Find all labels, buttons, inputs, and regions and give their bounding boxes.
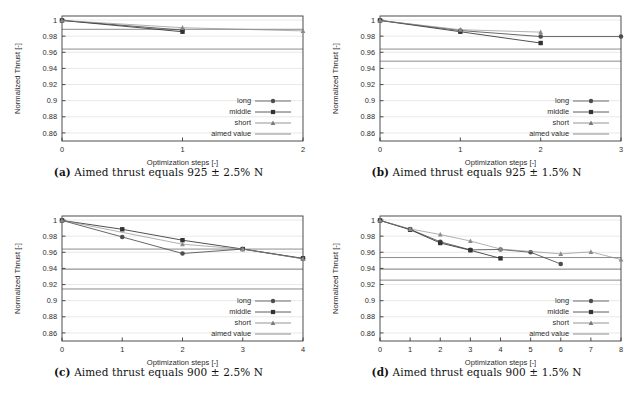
x-tick-label: 0 — [60, 345, 64, 354]
legend-label-middle: middle — [547, 307, 569, 316]
caption-c: (c) Aimed thrust equals 900 ± 2.5% N — [0, 366, 317, 378]
circle-marker — [538, 34, 543, 39]
y-tick-label: 0.92 — [361, 280, 375, 289]
x-tick-label: 2 — [180, 345, 184, 354]
legend-circle-marker — [271, 299, 275, 303]
plot-b: 10.980.960.940.920.90.880.860123Optimiza… — [318, 0, 635, 172]
figure-grid: 10.980.960.940.920.90.880.86012Optimizat… — [0, 0, 635, 411]
y-tick-label: 0.96 — [361, 248, 375, 257]
y-tick-label: 0.9 — [47, 96, 57, 105]
square-marker — [120, 227, 124, 231]
y-tick-label: 0.92 — [43, 280, 57, 289]
y-tick-label: 0.94 — [361, 264, 375, 273]
caption-c-tag: (c) — [54, 366, 71, 378]
caption-c-text: Aimed thrust equals 900 ± 2.5% N — [74, 366, 263, 378]
square-marker — [468, 248, 472, 252]
caption-b-tag: (b) — [372, 166, 390, 178]
y-tick-label: 0.94 — [43, 264, 57, 273]
x-tick-label: 2 — [539, 145, 543, 154]
legend-label-long: long — [237, 96, 251, 105]
y-tick-label: 0.88 — [43, 312, 57, 321]
panel-a: 10.980.960.940.920.90.880.86012Optimizat… — [0, 0, 317, 205]
legend-circle-marker — [589, 99, 593, 103]
y-tick-label: 0.98 — [43, 32, 57, 41]
legend-label-short: short — [235, 118, 251, 127]
y-tick-label: 0.92 — [43, 80, 57, 89]
plot-a: 10.980.960.940.920.90.880.86012Optimizat… — [0, 0, 317, 172]
x-tick-label: 8 — [619, 345, 623, 354]
panel-b: 10.980.960.940.920.90.880.860123Optimiza… — [318, 0, 635, 205]
y-tick-label: 0.88 — [361, 312, 375, 321]
x-tick-label: 3 — [468, 345, 472, 354]
legend-label-aimed-value: aimed value — [211, 129, 251, 138]
panel-c: 10.980.960.940.920.90.880.8601234Optimiz… — [0, 200, 317, 405]
y-tick-label: 0.88 — [43, 112, 57, 121]
y-tick-label: 0.96 — [43, 48, 57, 57]
legend-label-aimed-value: aimed value — [529, 329, 569, 338]
caption-b: (b) Aimed thrust equals 925 ± 1.5% N — [318, 166, 635, 178]
square-marker — [538, 41, 542, 45]
y-axis-title: Normalized Thrust [-] — [13, 43, 22, 114]
caption-b-text: Aimed thrust equals 925 ± 1.5% N — [393, 166, 582, 178]
circle-marker — [120, 235, 125, 240]
y-tick-label: 1 — [371, 216, 375, 225]
legend-label-aimed-value: aimed value — [211, 329, 251, 338]
y-tick-label: 1 — [53, 216, 57, 225]
x-tick-label: 1 — [458, 145, 462, 154]
x-tick-label: 6 — [559, 345, 563, 354]
plot-c: 10.980.960.940.920.90.880.8601234Optimiz… — [0, 200, 317, 372]
legend-label-long: long — [555, 96, 569, 105]
legend-label-short: short — [553, 318, 569, 327]
x-tick-label: 3 — [619, 145, 623, 154]
y-axis-title: Normalized Thrust [-] — [331, 43, 340, 114]
caption-d: (d) Aimed thrust equals 900 ± 1.5% N — [318, 366, 635, 378]
y-tick-label: 0.96 — [361, 48, 375, 57]
y-tick-label: 1 — [53, 16, 57, 25]
x-tick-label: 3 — [241, 345, 245, 354]
y-tick-label: 0.9 — [47, 296, 57, 305]
legend-label-short: short — [235, 318, 251, 327]
y-tick-label: 0.98 — [361, 232, 375, 241]
legend-square-marker — [271, 310, 275, 314]
circle-marker — [528, 250, 533, 255]
y-tick-label: 0.96 — [43, 248, 57, 257]
y-axis-title: Normalized Thrust [-] — [13, 243, 22, 314]
legend-label-aimed-value: aimed value — [529, 129, 569, 138]
caption-a-text: Aimed thrust equals 925 ± 2.5% N — [74, 166, 263, 178]
caption-d-text: Aimed thrust equals 900 ± 1.5% N — [393, 366, 582, 378]
chart-a: 10.980.960.940.920.90.880.86012Optimizat… — [0, 0, 317, 172]
y-tick-label: 0.94 — [43, 64, 57, 73]
y-tick-label: 0.86 — [361, 129, 375, 138]
x-tick-label: 1 — [180, 145, 184, 154]
y-tick-label: 0.9 — [365, 296, 375, 305]
x-tick-label: 1 — [120, 345, 124, 354]
circle-marker — [619, 34, 624, 39]
panel-d: 10.980.960.940.920.90.880.86012345678Opt… — [318, 200, 635, 405]
chart-b: 10.980.960.940.920.90.880.860123Optimiza… — [318, 0, 635, 172]
square-marker — [438, 241, 442, 245]
circle-marker — [558, 262, 563, 267]
x-tick-label: 0 — [378, 345, 382, 354]
x-tick-label: 7 — [589, 345, 593, 354]
caption-d-tag: (d) — [372, 366, 390, 378]
legend-square-marker — [271, 110, 275, 114]
square-marker — [498, 256, 502, 260]
x-tick-label: 1 — [408, 345, 412, 354]
chart-d: 10.980.960.940.920.90.880.86012345678Opt… — [318, 200, 635, 372]
legend-circle-marker — [271, 99, 275, 103]
x-tick-label: 0 — [60, 145, 64, 154]
x-tick-label: 4 — [301, 345, 305, 354]
x-tick-label: 2 — [301, 145, 305, 154]
caption-a: (a) Aimed thrust equals 925 ± 2.5% N — [0, 166, 317, 178]
legend-circle-marker — [589, 299, 593, 303]
plot-d: 10.980.960.940.920.90.880.86012345678Opt… — [318, 200, 635, 372]
legend-label-long: long — [555, 296, 569, 305]
y-tick-label: 0.98 — [361, 32, 375, 41]
square-marker — [180, 30, 184, 34]
x-tick-label: 4 — [498, 345, 502, 354]
y-tick-label: 0.86 — [43, 329, 57, 338]
y-axis-title: Normalized Thrust [-] — [331, 243, 340, 314]
y-tick-label: 0.86 — [361, 329, 375, 338]
legend-label-short: short — [553, 118, 569, 127]
chart-c: 10.980.960.940.920.90.880.8601234Optimiz… — [0, 200, 317, 372]
